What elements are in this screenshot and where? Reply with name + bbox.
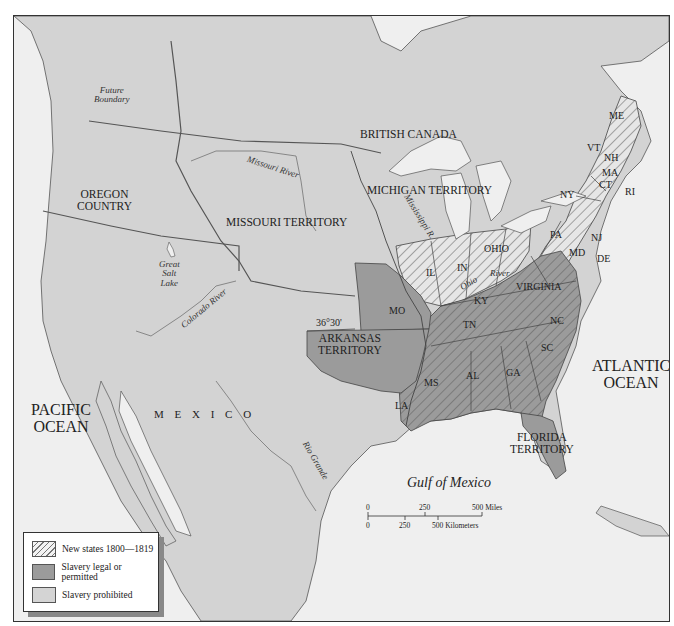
- state-label-me: ME: [609, 111, 624, 122]
- label-michigan-territory: MICHIGAN TERRITORY: [367, 184, 492, 196]
- state-label-al: AL: [466, 371, 479, 382]
- legend-label-new-states: New states 1800—1819: [62, 544, 153, 554]
- map-legend: New states 1800—1819 Slavery legal or pe…: [23, 532, 159, 612]
- state-label-md: MD: [569, 248, 585, 259]
- label-atlantic-ocean: ATLANTICOCEAN: [592, 358, 670, 392]
- pacific-text-1: PACIFIC: [31, 401, 91, 418]
- oregon-text-1: OREGON: [81, 188, 129, 200]
- oregon-text-2: COUNTRY: [77, 200, 132, 212]
- state-label-nc: NC: [550, 316, 564, 327]
- florida-text-2: TERRITORY: [510, 443, 574, 455]
- state-label-tn: TN: [463, 320, 476, 331]
- scale-miles-250: 250: [419, 503, 430, 512]
- legend-item-slavery-legal: Slavery legal or permitted: [32, 564, 158, 580]
- scale-km-500: 500 Kilometers: [432, 521, 478, 530]
- scale-miles-0: 0: [366, 503, 370, 512]
- state-label-ri: RI: [625, 187, 635, 198]
- state-label-ma: MA: [602, 168, 618, 179]
- state-label-nh: NH: [604, 153, 618, 164]
- scale-km-250: 250: [399, 521, 410, 530]
- state-label-ga: GA: [506, 368, 520, 379]
- map-frame: BRITISH CANADA FutureBoundary OREGONCOUN…: [13, 15, 670, 622]
- label-ohio-river-2: River: [490, 269, 510, 278]
- scale-km-0: 0: [366, 521, 370, 530]
- legend-label-slavery-prohibited: Slavery prohibited: [62, 590, 132, 600]
- label-florida-territory: FLORIDATERRITORY: [510, 431, 574, 455]
- state-label-pa: PA: [550, 230, 562, 241]
- label-gulf-of-mexico: Gulf of Mexico: [407, 476, 491, 491]
- state-label-nj: NJ: [591, 233, 602, 244]
- pacific-text-2: OCEAN: [33, 418, 88, 435]
- state-label-sc: SC: [541, 343, 553, 354]
- state-label-il: IL: [426, 268, 435, 279]
- label-british-canada: BRITISH CANADA: [360, 128, 457, 140]
- state-label-la: LA: [395, 401, 408, 412]
- state-label-in: IN: [457, 263, 468, 274]
- dark-gray-swatch-icon: [32, 564, 55, 580]
- scale-bar: 0 250 500 Miles 0 250 500 Kilometers: [364, 505, 494, 533]
- atlantic-text-1: ATLANTIC: [592, 357, 670, 374]
- state-label-ky: KY: [474, 296, 488, 307]
- atlantic-text-2: OCEAN: [604, 374, 659, 391]
- label-mexico: M E X I C O: [154, 409, 255, 421]
- label-missouri-territory: MISSOURI TERRITORY: [226, 216, 347, 228]
- label-future-boundary: FutureBoundary: [94, 86, 130, 105]
- legend-item-new-states: New states 1800—1819: [32, 541, 153, 557]
- label-great-salt-lake: GreatSaltLake: [159, 260, 180, 288]
- state-label-mo: MO: [389, 306, 405, 317]
- legend-item-slavery-prohibited: Slavery prohibited: [32, 587, 132, 603]
- arkansas-text-2: TERRITORY: [318, 344, 382, 356]
- state-label-ny: NY: [560, 190, 574, 201]
- florida-text-1: FLORIDA: [517, 431, 567, 443]
- label-arkansas-territory: ARKANSASTERRITORY: [318, 332, 382, 356]
- light-gray-swatch-icon: [32, 587, 56, 603]
- hatched-swatch-icon: [32, 541, 56, 557]
- label-oregon-country: OREGONCOUNTRY: [77, 188, 132, 212]
- label-pacific-ocean: PACIFICOCEAN: [31, 402, 91, 436]
- state-label-ohio: OHIO: [484, 244, 509, 255]
- arkansas-text-1: ARKANSAS: [319, 332, 381, 344]
- state-label-virginia: VIRGINIA: [516, 282, 562, 293]
- state-label-de: DE: [597, 254, 610, 265]
- state-label-ms: MS: [424, 378, 438, 389]
- legend-label-slavery-legal: Slavery legal or permitted: [61, 562, 158, 582]
- label-36-30: 36°30': [316, 318, 342, 329]
- state-label-ct: CT: [599, 180, 612, 191]
- future-boundary-text-2: Boundary: [94, 94, 130, 104]
- state-label-vt: VT: [587, 143, 600, 154]
- salt-lake-text-3: Lake: [161, 278, 179, 288]
- scale-miles-500: 500 Miles: [472, 503, 502, 512]
